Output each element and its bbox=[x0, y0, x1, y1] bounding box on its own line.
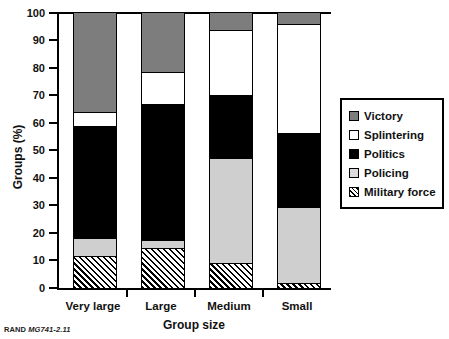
segment-large-politics bbox=[142, 105, 184, 241]
chart-legend: Victory Splintering Politics Policing Mi… bbox=[340, 98, 444, 209]
y-tick-0 bbox=[49, 287, 57, 289]
y-tick-label-20: 20 bbox=[33, 228, 45, 239]
y-tick-90 bbox=[49, 39, 57, 41]
legend-label-military-force: Military force bbox=[364, 186, 436, 198]
y-tick-label-70: 70 bbox=[33, 90, 45, 101]
policing-swatch-icon bbox=[349, 168, 359, 178]
y-tick-label-0: 0 bbox=[39, 283, 45, 294]
splintering-swatch-icon bbox=[349, 130, 359, 140]
y-tick-label-30: 30 bbox=[33, 200, 45, 211]
military-force-swatch-icon bbox=[349, 187, 359, 197]
footer-figure-code: MG741-2.11 bbox=[28, 325, 70, 334]
segment-large-policing bbox=[142, 241, 184, 248]
bar-medium bbox=[209, 13, 253, 288]
segment-very-large-policing bbox=[74, 239, 116, 257]
victory-swatch-icon bbox=[349, 111, 359, 121]
y-tick-10 bbox=[49, 259, 57, 261]
y-tick-label-100: 100 bbox=[27, 8, 45, 19]
segment-large-victory bbox=[142, 13, 184, 72]
segment-very-large-victory bbox=[74, 13, 116, 112]
segment-small-policing bbox=[278, 208, 320, 282]
x-tick-2 bbox=[194, 289, 196, 297]
legend-item-splintering: Splintering bbox=[349, 125, 436, 144]
x-tick-label-very-large: Very large bbox=[66, 300, 121, 312]
legend-item-military-force: Military force bbox=[349, 182, 436, 201]
segment-large-military-force bbox=[142, 248, 184, 288]
segment-very-large-military-force bbox=[74, 256, 116, 288]
segment-medium-military-force bbox=[210, 263, 252, 288]
x-tick-label-small: Small bbox=[282, 300, 313, 312]
y-tick-80 bbox=[49, 67, 57, 69]
politics-swatch-icon bbox=[349, 149, 359, 159]
segment-medium-victory bbox=[210, 13, 252, 30]
y-tick-label-10: 10 bbox=[33, 255, 45, 266]
bar-small bbox=[277, 13, 321, 288]
y-tick-40 bbox=[49, 177, 57, 179]
legend-item-policing: Policing bbox=[349, 163, 436, 182]
legend-item-politics: Politics bbox=[349, 144, 436, 163]
y-axis: 100 90 80 70 60 50 40 30 20 10 0 bbox=[0, 0, 57, 289]
y-tick-label-90: 90 bbox=[33, 35, 45, 46]
x-tick-label-large: Large bbox=[145, 300, 176, 312]
y-tick-50 bbox=[49, 149, 57, 151]
plot-area bbox=[57, 13, 331, 290]
x-axis-title: Group size bbox=[57, 318, 331, 332]
y-axis-title: Groups (%) bbox=[11, 77, 25, 237]
x-tick-3 bbox=[262, 289, 264, 297]
legend-label-politics: Politics bbox=[364, 148, 405, 160]
segment-small-splintering bbox=[278, 24, 320, 134]
legend-label-splintering: Splintering bbox=[364, 129, 424, 141]
y-tick-100 bbox=[49, 12, 57, 14]
figure-footer: RAND MG741-2.11 bbox=[4, 325, 70, 334]
footer-organization: RAND bbox=[4, 325, 26, 334]
bar-very-large bbox=[73, 13, 117, 288]
legend-label-victory: Victory bbox=[364, 110, 403, 122]
y-tick-label-60: 60 bbox=[33, 118, 45, 129]
segment-large-splintering bbox=[142, 72, 184, 105]
segment-medium-policing bbox=[210, 159, 252, 264]
segment-small-victory bbox=[278, 13, 320, 24]
x-tick-label-medium: Medium bbox=[207, 300, 250, 312]
segment-very-large-politics bbox=[74, 127, 116, 238]
y-tick-20 bbox=[49, 232, 57, 234]
chart-figure: 100 90 80 70 60 50 40 30 20 10 0 Groups … bbox=[0, 0, 449, 339]
y-tick-label-40: 40 bbox=[33, 173, 45, 184]
segment-medium-splintering bbox=[210, 30, 252, 96]
y-tick-label-80: 80 bbox=[33, 63, 45, 74]
y-tick-70 bbox=[49, 94, 57, 96]
y-tick-label-50: 50 bbox=[33, 145, 45, 156]
segment-small-military-force bbox=[278, 283, 320, 289]
y-tick-30 bbox=[49, 204, 57, 206]
bar-large bbox=[141, 13, 185, 288]
segment-very-large-splintering bbox=[74, 112, 116, 127]
x-tick-1 bbox=[126, 289, 128, 297]
legend-label-policing: Policing bbox=[364, 167, 409, 179]
legend-item-victory: Victory bbox=[349, 106, 436, 125]
y-tick-60 bbox=[49, 122, 57, 124]
segment-medium-politics bbox=[210, 96, 252, 159]
segment-small-politics bbox=[278, 134, 320, 208]
